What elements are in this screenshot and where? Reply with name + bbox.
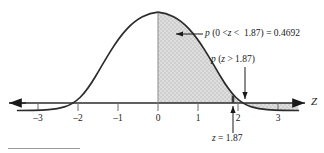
footer-divider [8,148,80,149]
tick-label-three: 3 [270,114,286,124]
annotation-tail-probability: p (z > 1.87) [211,55,255,65]
tick-label-two: 2 [230,114,246,124]
z-marker-label: z = 1.87 [212,134,242,144]
annotation-area-body: (0 < [210,28,228,38]
tick-label-minus1: –1 [110,114,126,124]
normal-distribution-figure: –3 –2 –1 0 1 2 3 Z p (0 <z < 1.87) = 0.4… [0,0,324,153]
tick-label-zero: 0 [150,114,166,124]
tick-label-one: 1 [190,114,206,124]
annotation-area-body2: < 1.87) = 0.4692 [231,28,300,38]
annotation-tail-body2: > 1.87) [225,54,255,64]
x-axis-label: Z [311,96,317,107]
chart-canvas [0,0,324,153]
z-marker-value: = 1.87 [216,133,243,143]
annotation-area-probability: p (0 <z < 1.87) = 0.4692 [205,29,300,39]
tick-label-minus2: –2 [70,114,86,124]
x-axis-ticks [38,103,278,111]
tick-label-minus3: –3 [30,114,46,124]
